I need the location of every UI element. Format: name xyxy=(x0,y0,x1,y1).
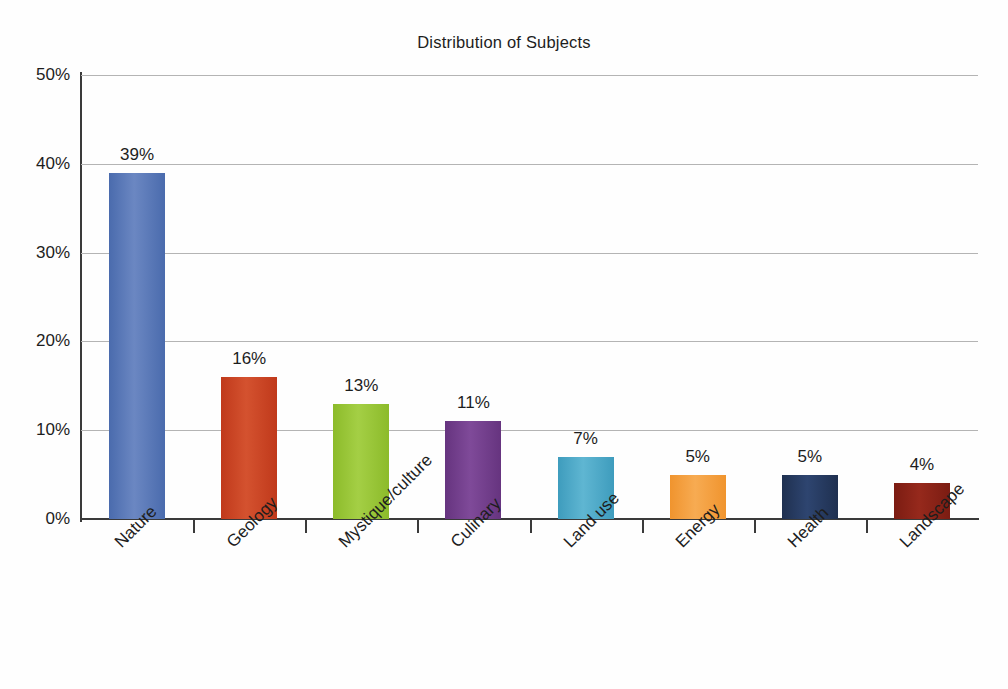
x-axis-tick xyxy=(193,520,195,533)
chart-figure: Distribution of Subjects 0%10%20%30%40%5… xyxy=(0,0,1008,689)
y-axis-tick-label: 30% xyxy=(10,243,70,263)
bar-value-label: 4% xyxy=(910,455,935,475)
bar-slot: 5% xyxy=(754,75,866,519)
x-axis-tick xyxy=(417,520,419,533)
y-axis-tick-label: 40% xyxy=(10,154,70,174)
y-axis-tick-label: 10% xyxy=(10,420,70,440)
x-axis-tick xyxy=(305,520,307,533)
bar-slot: 16% xyxy=(193,75,305,519)
bar-value-label: 5% xyxy=(798,447,823,467)
bar-value-label: 11% xyxy=(457,393,490,413)
bar-value-label: 16% xyxy=(232,349,266,369)
bar-slot: 5% xyxy=(642,75,754,519)
y-axis-tick-label: 50% xyxy=(10,65,70,85)
x-axis-tick xyxy=(530,520,532,533)
plot-area: 39%16%13%11%7%5%5%4% xyxy=(81,75,978,519)
bar-value-label: 39% xyxy=(120,145,154,165)
bar-value-label: 13% xyxy=(344,376,378,396)
bar-slot: 39% xyxy=(81,75,193,519)
bar-slot: 13% xyxy=(305,75,417,519)
bar-slot: 4% xyxy=(866,75,978,519)
x-axis-tick xyxy=(754,520,756,533)
bar-value-label: 5% xyxy=(685,447,710,467)
bar[interactable] xyxy=(109,173,165,519)
bar-slot: 7% xyxy=(530,75,642,519)
x-axis-tick xyxy=(642,520,644,533)
y-axis-tick-label: 20% xyxy=(10,331,70,351)
x-axis-tick xyxy=(866,520,868,533)
bar-value-label: 7% xyxy=(573,429,598,449)
chart-title: Distribution of Subjects xyxy=(0,33,1008,52)
bar-slot: 11% xyxy=(417,75,529,519)
y-axis-tick-label: 0% xyxy=(10,509,70,529)
